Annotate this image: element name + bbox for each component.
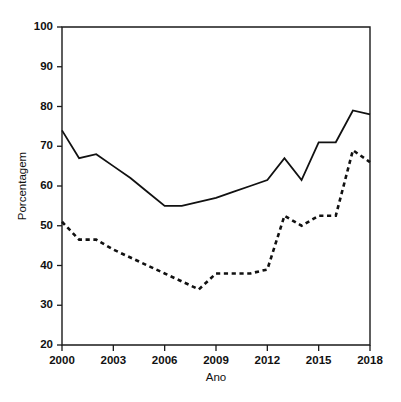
y-tick-label: 40 xyxy=(40,259,53,271)
x-tick-label: 2000 xyxy=(49,354,75,366)
data-series-group xyxy=(62,110,370,289)
y-axis-title: Porcentagem xyxy=(16,152,28,220)
x-tick-label: 2006 xyxy=(152,354,178,366)
x-axis-title: Ano xyxy=(206,371,226,383)
line-chart: 2030405060708090100 20002003200620092012… xyxy=(0,0,401,402)
x-tick-label: 2009 xyxy=(203,354,229,366)
y-axis-ticks: 2030405060708090100 xyxy=(34,20,62,350)
axis-frame xyxy=(62,27,370,345)
x-tick-label: 2018 xyxy=(357,354,383,366)
y-tick-label: 50 xyxy=(40,219,53,231)
series-line-dashed-series xyxy=(62,150,370,289)
x-tick-label: 2012 xyxy=(255,354,281,366)
series-line-solid-series xyxy=(62,110,370,205)
plot-frame xyxy=(62,27,370,345)
y-tick-label: 70 xyxy=(40,139,53,151)
x-tick-label: 2003 xyxy=(101,354,127,366)
x-axis-ticks: 2000200320062009201220152018 xyxy=(49,345,383,366)
chart-container: 2030405060708090100 20002003200620092012… xyxy=(0,0,401,402)
y-tick-label: 90 xyxy=(40,60,53,72)
y-tick-label: 80 xyxy=(40,100,53,112)
y-tick-label: 60 xyxy=(40,179,53,191)
y-tick-label: 30 xyxy=(40,298,53,310)
x-tick-label: 2015 xyxy=(306,354,332,366)
y-tick-label: 20 xyxy=(40,338,53,350)
y-tick-label: 100 xyxy=(34,20,53,32)
